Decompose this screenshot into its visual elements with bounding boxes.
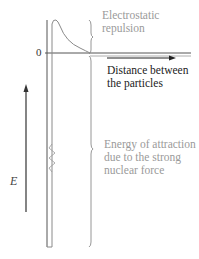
attraction-label-line3: nuclear force xyxy=(104,164,164,177)
attraction-label-line1: Energy of attraction xyxy=(104,138,196,151)
attraction-label-line2: due to the strong xyxy=(104,151,181,164)
potential-energy-diagram xyxy=(0,0,199,259)
energy-arrow-head-icon xyxy=(24,84,29,92)
distance-label-line1: Distance between xyxy=(107,64,188,77)
energy-axis-label: E xyxy=(10,175,17,188)
repulsion-label-line1: Electrostatic xyxy=(102,9,159,22)
zero-label: 0 xyxy=(36,46,42,59)
distance-label-line2: the particles xyxy=(107,77,163,90)
attraction-brace xyxy=(89,56,93,247)
potential-curve xyxy=(52,20,90,247)
repulsion-label-line2: repulsion xyxy=(102,22,145,35)
repulsion-brace xyxy=(89,20,93,54)
